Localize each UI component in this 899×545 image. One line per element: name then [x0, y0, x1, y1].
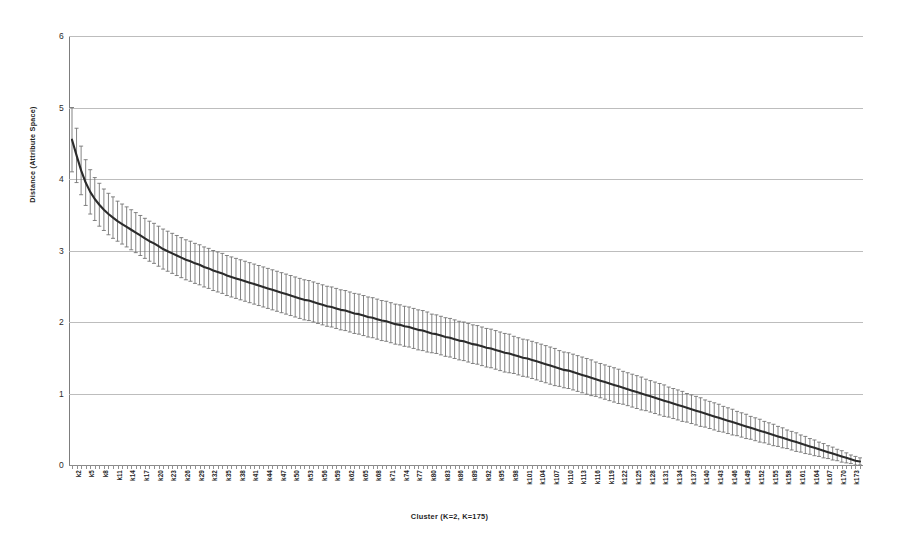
x-tick — [623, 465, 624, 469]
x-tick — [209, 465, 210, 469]
x-tick — [477, 465, 478, 469]
x-tick — [450, 465, 451, 469]
x-tick — [737, 465, 738, 469]
x-tick — [769, 465, 770, 469]
x-tick — [833, 465, 834, 469]
x-tick — [728, 465, 729, 469]
x-tick — [99, 465, 100, 469]
x-tick — [518, 465, 519, 469]
x-tick — [541, 465, 542, 469]
x-tick — [359, 465, 360, 469]
x-tick — [846, 465, 847, 469]
x-tick-label-k164: k164 — [813, 470, 820, 485]
x-tick-label-k140: k140 — [703, 470, 710, 485]
x-tick — [637, 465, 638, 469]
x-tick — [473, 465, 474, 469]
x-tick — [118, 465, 119, 469]
x-tick — [509, 465, 510, 469]
x-tick-label-k47: k47 — [280, 470, 287, 481]
x-axis-tick-labels: k2k5k8k11k14k17k20k23k26k29k32k35k38k41k… — [69, 470, 863, 506]
x-tick — [701, 465, 702, 469]
x-tick — [605, 465, 606, 469]
x-tick — [86, 465, 87, 469]
x-tick — [386, 465, 387, 469]
x-tick — [550, 465, 551, 469]
x-tick — [286, 465, 287, 469]
x-tick-label-k152: k152 — [758, 470, 765, 485]
x-tick — [414, 465, 415, 469]
x-tick-label-k77: k77 — [416, 470, 423, 481]
x-tick — [122, 465, 123, 469]
y-tick-label-4: 4 — [44, 174, 64, 184]
x-tick — [364, 465, 365, 469]
x-tick — [691, 465, 692, 469]
x-tick — [409, 465, 410, 469]
x-tick — [805, 465, 806, 469]
x-tick — [418, 465, 419, 469]
x-tick — [710, 465, 711, 469]
x-tick-label-k119: k119 — [608, 470, 615, 484]
x-tick — [323, 465, 324, 469]
x-tick-label-k65: k65 — [362, 470, 369, 481]
x-tick — [77, 465, 78, 469]
x-tick — [391, 465, 392, 469]
x-tick — [751, 465, 752, 469]
x-tick-label-k83: k83 — [444, 470, 451, 481]
x-tick — [500, 465, 501, 469]
x-tick — [104, 465, 105, 469]
x-tick — [163, 465, 164, 469]
x-tick-label-k143: k143 — [717, 470, 724, 485]
x-tick — [764, 465, 765, 469]
x-tick — [646, 465, 647, 469]
x-tick — [632, 465, 633, 469]
x-tick — [227, 465, 228, 469]
x-tick — [400, 465, 401, 469]
x-tick — [90, 465, 91, 469]
x-tick — [773, 465, 774, 469]
x-tick-label-k50: k50 — [293, 470, 300, 481]
x-tick — [760, 465, 761, 469]
x-tick-label-k155: k155 — [772, 470, 779, 485]
x-tick — [377, 465, 378, 469]
x-tick — [177, 465, 178, 469]
x-tick — [523, 465, 524, 469]
x-tick-label-k2: k2 — [75, 470, 82, 477]
x-tick-label-k116: k116 — [594, 470, 601, 484]
x-tick-label-k86: k86 — [457, 470, 464, 481]
x-tick — [277, 465, 278, 469]
x-tick — [778, 465, 779, 469]
x-tick-label-k149: k149 — [744, 470, 751, 485]
x-tick — [172, 465, 173, 469]
x-tick — [742, 465, 743, 469]
x-tick — [427, 465, 428, 469]
x-tick — [441, 465, 442, 469]
x-tick — [222, 465, 223, 469]
x-tick-label-k161: k161 — [799, 470, 806, 485]
x-tick — [127, 465, 128, 469]
x-tick — [432, 465, 433, 469]
x-tick-label-k71: k71 — [389, 470, 396, 481]
x-tick — [532, 465, 533, 469]
x-tick — [655, 465, 656, 469]
x-tick-label-k44: k44 — [266, 470, 273, 481]
y-tick-label-1: 1 — [44, 389, 64, 399]
x-tick-label-k38: k38 — [239, 470, 246, 481]
x-tick — [282, 465, 283, 469]
x-tick — [149, 465, 150, 469]
x-tick — [783, 465, 784, 469]
x-tick-label-k167: k167 — [826, 470, 833, 485]
x-tick — [313, 465, 314, 469]
x-tick — [304, 465, 305, 469]
x-tick — [190, 465, 191, 469]
x-tick — [113, 465, 114, 469]
x-tick — [591, 465, 592, 469]
x-tick — [200, 465, 201, 469]
x-axis-title: Cluster (K=2, K=175) — [0, 512, 899, 521]
x-tick-label-k14: k14 — [129, 470, 136, 481]
x-tick-label-k68: k68 — [375, 470, 382, 481]
x-tick — [609, 465, 610, 469]
x-tick-label-k56: k56 — [321, 470, 328, 481]
x-tick-label-k5: k5 — [88, 470, 95, 477]
x-tick — [828, 465, 829, 469]
x-tick — [373, 465, 374, 469]
